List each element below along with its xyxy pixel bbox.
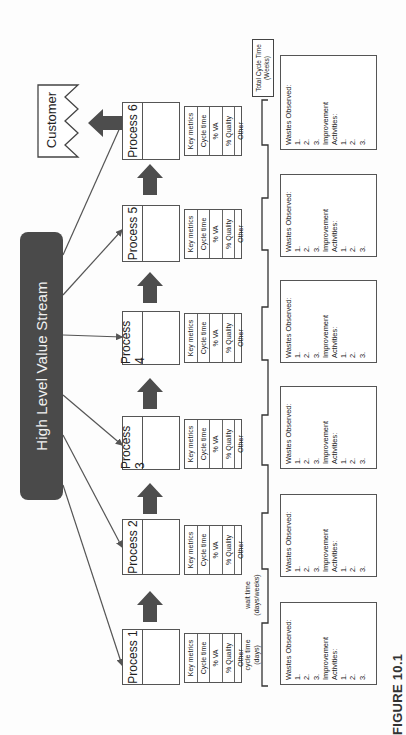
metrics-table-2: Key metrics Cycle time % VA % Quality Ot… — [184, 525, 242, 575]
improvement-item: 2. — [348, 60, 357, 145]
cycle-time-text: cycle time — [244, 630, 253, 680]
metric-cycle-time: Cycle time — [198, 526, 211, 574]
waste-item: 3. — [312, 285, 321, 358]
waste-item: 1. — [293, 285, 302, 358]
waste-item: 1. — [293, 607, 302, 680]
total-cycle-time-box: Total Cycle Time (Weeks) — [252, 39, 274, 97]
improvement-title: Improvement — [321, 179, 330, 252]
waste-box-5: Wastes Observed: 1. 2. 3. Improvement Ac… — [280, 174, 377, 257]
customer-label: Customer — [44, 89, 59, 151]
waste-box-4: Wastes Observed: 1. 2. 3. Improvement Ac… — [280, 280, 377, 363]
improvement-item: 3. — [358, 607, 367, 680]
metrics-table-3: Key metrics Cycle time % VA % Quality Ot… — [184, 419, 242, 469]
metrics-table-6: Key metrics Cycle time % VA % Quality Ot… — [184, 106, 242, 156]
metric-va: % VA — [210, 526, 223, 574]
waste-item: 3. — [312, 607, 321, 680]
metrics-table-4: Key metrics Cycle time % VA % Quality Ot… — [184, 313, 242, 363]
wastes-title: Wastes Observed: — [284, 60, 293, 145]
metric-cycle-time: Cycle time — [198, 210, 211, 258]
total-cycle-time-text: Total Cycle Time — [255, 40, 263, 96]
wastes-title: Wastes Observed: — [284, 391, 293, 464]
improvement-title: Improvement — [321, 285, 330, 358]
figure-caption: FIGURE 10.1 — [390, 615, 405, 735]
metric-key: Key metrics — [185, 420, 198, 468]
waste-box-6: Wastes Observed: 1. 2. 3. Improvement Ac… — [280, 55, 377, 150]
waste-box-3: Wastes Observed: 1. 2. 3. Improvement Ac… — [280, 386, 377, 469]
improvement-item: 3. — [358, 60, 367, 145]
metric-cycle-time: Cycle time — [198, 420, 211, 468]
waste-item: 1. — [293, 391, 302, 464]
process-title: Process 5 — [123, 206, 143, 261]
cycle-time-unit: (days) — [253, 630, 262, 680]
metric-key: Key metrics — [185, 526, 198, 574]
process-title: Process 4 — [123, 312, 143, 364]
metric-va: % VA — [210, 634, 223, 682]
waste-item: 2. — [302, 285, 311, 358]
improvement-title: Improvement — [321, 60, 330, 145]
improvement-item: 1. — [339, 179, 348, 252]
process-box-3: Process 3 — [122, 416, 180, 470]
process-title: Process 1 — [123, 630, 143, 684]
improvement-title: Improvement — [321, 607, 330, 680]
improvement-item: 3. — [358, 391, 367, 464]
improvement-item: 2. — [348, 179, 357, 252]
process-box-2: Process 2 — [122, 519, 180, 575]
waste-item: 2. — [302, 179, 311, 252]
process-box-1: Process 1 — [122, 629, 180, 685]
process-box-6: Process 6 — [122, 102, 180, 160]
improvement-item: 2. — [348, 499, 357, 572]
metric-other: Other — [235, 420, 247, 468]
metric-va: % VA — [210, 107, 223, 155]
waste-box-1: Wastes Observed: 1. 2. 3. Improvement Ac… — [280, 602, 377, 685]
improvement-item: 1. — [339, 391, 348, 464]
process-title: Process 6 — [123, 103, 143, 159]
wastes-title: Wastes Observed: — [284, 179, 293, 252]
metrics-table-5: Key metrics Cycle time % VA % Quality Ot… — [184, 209, 242, 259]
metric-quality: % Quality — [223, 420, 236, 468]
waste-item: 1. — [293, 499, 302, 572]
improvement-item: 3. — [358, 285, 367, 358]
improvement-title: Activities: — [330, 607, 339, 680]
improvement-item: 3. — [358, 179, 367, 252]
waste-item: 1. — [293, 179, 302, 252]
metrics-table-1: Key metrics Cycle time % VA % Quality Ot… — [184, 633, 242, 683]
improvement-title: Activities: — [330, 60, 339, 145]
improvement-item: 2. — [348, 391, 357, 464]
waste-item: 1. — [293, 60, 302, 145]
improvement-item: 2. — [348, 285, 357, 358]
metric-other: Other — [235, 314, 247, 362]
improvement-item: 1. — [339, 499, 348, 572]
process-title: Process 3 — [123, 417, 143, 469]
improvement-title: Activities: — [330, 391, 339, 464]
high-level-value-stream-box: High Level Value Stream — [20, 232, 63, 500]
improvement-title: Activities: — [330, 179, 339, 252]
process-title: Process 2 — [123, 520, 143, 574]
waste-item: 3. — [312, 391, 321, 464]
metric-quality: % Quality — [223, 634, 236, 682]
metric-key: Key metrics — [185, 314, 198, 362]
metric-va: % VA — [210, 420, 223, 468]
improvement-item: 1. — [339, 607, 348, 680]
metric-key: Key metrics — [185, 210, 198, 258]
wait-time-text: wait time — [244, 567, 253, 623]
waste-item: 2. — [302, 607, 311, 680]
process-box-5: Process 5 — [122, 205, 180, 262]
wait-time-label: wait time (days/weeks) — [244, 567, 261, 623]
metric-cycle-time: Cycle time — [198, 314, 211, 362]
value-stream-diagram: High Level Value Stream Customer Process… — [0, 0, 406, 735]
improvement-title: Activities: — [330, 285, 339, 358]
metric-key: Key metrics — [185, 107, 198, 155]
improvement-item: 2. — [348, 607, 357, 680]
metric-cycle-time: Cycle time — [198, 107, 211, 155]
metric-other: Other — [235, 107, 247, 155]
waste-item: 3. — [312, 60, 321, 145]
waste-item: 2. — [302, 391, 311, 464]
wastes-title: Wastes Observed: — [284, 499, 293, 572]
metric-key: Key metrics — [185, 634, 198, 682]
improvement-title: Improvement — [321, 391, 330, 464]
waste-item: 2. — [302, 60, 311, 145]
metric-cycle-time: Cycle time — [198, 634, 211, 682]
metric-va: % VA — [210, 210, 223, 258]
wastes-title: Wastes Observed: — [284, 285, 293, 358]
improvement-item: 1. — [339, 285, 348, 358]
